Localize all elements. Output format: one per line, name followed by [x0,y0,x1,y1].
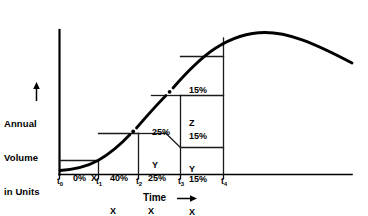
segment-label-t3-t4-z: 15% Z [189,62,207,152]
y-axis-label-line-2: Volume [4,152,56,163]
x-tick-label-t4: t4 [221,176,227,186]
segment-label-t0-t1-x: 0% X [63,162,97,196]
chart-figure: Annual Volume in Units Time t0 t1 t2 t3 … [0,0,368,216]
segment-label-t2-t3-y: 25% Y [152,104,170,194]
x-tick-label-t2: t2 [136,176,142,186]
curve-dot-t3 [168,90,172,94]
y-axis-label: Annual Volume in Units [4,96,56,216]
y-axis-label-line-3: in Units [4,186,56,197]
x-tick-label-t3: t3 [178,176,184,186]
segment-label-t1-t2-x: 40% X [110,150,128,216]
curve-dot-t2 [131,130,135,134]
y-axis-label-line-1: Annual [4,118,56,129]
